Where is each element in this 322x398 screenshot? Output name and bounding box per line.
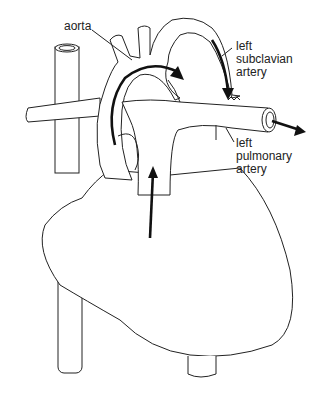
pulmonary-leader xyxy=(226,128,234,142)
label-left-subclavian-artery: left subclavian artery xyxy=(236,40,293,79)
label-left-pulmonary-artery: left pulmonary artery xyxy=(236,137,292,176)
inferior-vena-cava xyxy=(188,356,216,377)
label-aorta: aorta xyxy=(64,20,91,33)
pulmonary-outflow-arrow xyxy=(272,121,300,130)
